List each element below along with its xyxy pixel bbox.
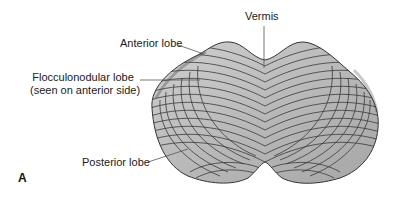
anterior-lobe-label: Anterior lobe bbox=[120, 37, 182, 50]
flocculonodular-lobe-label: Flocculonodular lobe (seen on anterior s… bbox=[30, 71, 136, 97]
posterior-lobe-label: Posterior lobe bbox=[82, 156, 150, 169]
panel-letter: A bbox=[18, 171, 27, 185]
flocculonodular-label-line1: Flocculonodular lobe bbox=[30, 71, 136, 84]
cerebellum-figure: Vermis Anterior lobe Flocculonodular lob… bbox=[0, 0, 401, 203]
flocculonodular-label-line2: (seen on anterior side) bbox=[30, 84, 136, 97]
vermis-label: Vermis bbox=[245, 10, 279, 23]
cerebellum-illustration bbox=[0, 0, 401, 203]
